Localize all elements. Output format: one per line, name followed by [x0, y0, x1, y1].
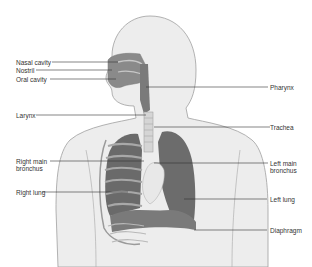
label-left-bronchus: bronchus [270, 167, 297, 174]
label-left-main: Left main [270, 160, 297, 167]
label-nostril: Nostril [16, 67, 34, 74]
label-oral-cavity: Oral cavity [16, 76, 47, 83]
respiratory-illustration [0, 0, 312, 267]
label-pharynx: Pharynx [270, 84, 294, 91]
label-diaphragm: Diaphragm [270, 227, 302, 234]
label-nasal-cavity: Nasal cavity [16, 59, 51, 66]
label-trachea: Trachea [270, 124, 294, 131]
label-right-lung: Right lung [16, 189, 45, 196]
label-left-lung: Left lung [270, 196, 295, 203]
label-larynx: Larynx [16, 112, 36, 119]
label-right-main: Right main [16, 158, 47, 165]
label-right-bronchus: bronchus [16, 165, 43, 172]
